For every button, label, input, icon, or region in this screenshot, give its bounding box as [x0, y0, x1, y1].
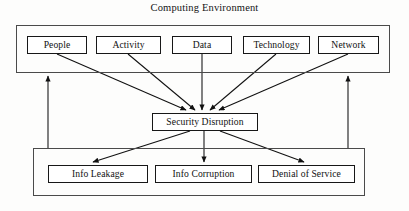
node-security-disruption[interactable]: Security Disruption	[152, 113, 258, 131]
node-info-corruption[interactable]: Info Corruption	[155, 165, 252, 183]
node-people[interactable]: People	[27, 36, 87, 54]
node-security-disruption-label: Security Disruption	[166, 117, 243, 127]
node-network-label: Network	[331, 40, 365, 50]
node-data-label: Data	[193, 40, 212, 50]
node-info-leakage[interactable]: Info Leakage	[48, 165, 148, 183]
node-info-leakage-label: Info Leakage	[72, 169, 124, 179]
diagram-root: Computing Environment People	[0, 0, 409, 211]
node-technology-label: Technology	[253, 40, 299, 50]
node-denial-of-service[interactable]: Denial of Service	[258, 165, 355, 183]
node-denial-of-service-label: Denial of Service	[272, 169, 341, 179]
node-people-label: People	[44, 40, 71, 50]
page-title: Computing Environment	[0, 2, 409, 13]
node-data[interactable]: Data	[172, 36, 232, 54]
node-activity-label: Activity	[112, 40, 144, 50]
node-technology[interactable]: Technology	[243, 36, 310, 54]
node-network[interactable]: Network	[318, 36, 379, 54]
node-info-corruption-label: Info Corruption	[173, 169, 235, 179]
node-activity[interactable]: Activity	[96, 36, 161, 54]
